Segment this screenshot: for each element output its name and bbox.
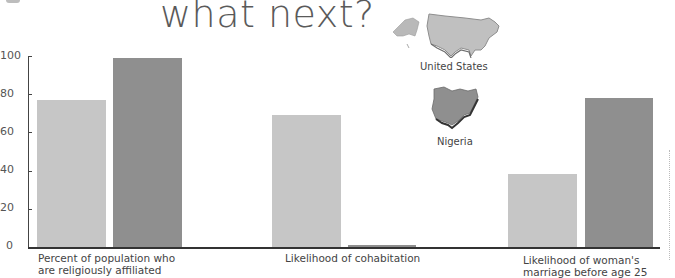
y-tickmark xyxy=(28,56,32,57)
bar-nigeria-marriage xyxy=(585,98,653,247)
category-label-marriage: Likelihood of woman's marriage before ag… xyxy=(523,254,647,278)
y-tick-40: 40 xyxy=(0,163,22,176)
y-tick-80: 80 xyxy=(0,87,22,100)
category-label-line: Likelihood of woman's xyxy=(523,254,647,266)
y-tickmark xyxy=(28,94,32,95)
y-tickmark xyxy=(28,209,32,210)
y-tick-0: 0 xyxy=(6,239,28,252)
y-tick-60: 60 xyxy=(0,125,22,138)
legend-label-nigeria: Nigeria xyxy=(437,136,473,147)
legend-label-us: United States xyxy=(420,61,488,72)
x-axis xyxy=(28,247,660,249)
y-axis xyxy=(28,56,29,248)
corner-decoration xyxy=(6,0,20,3)
category-label-line: Percent of population who xyxy=(38,252,175,264)
bar-us-marriage xyxy=(508,174,577,247)
bar-us-religious xyxy=(37,100,106,247)
bar-nigeria-religious xyxy=(113,58,182,247)
category-label-line: marriage before age 25 xyxy=(523,266,647,278)
edge-decoration xyxy=(669,150,672,260)
y-tick-100: 100 xyxy=(0,49,22,62)
category-label-line: are religiously affiliated xyxy=(38,264,175,276)
category-label-cohabitation: Likelihood of cohabitation xyxy=(285,252,420,264)
nigeria-map-icon xyxy=(428,85,480,131)
y-tick-20: 20 xyxy=(0,201,22,214)
chart-title: what next? xyxy=(160,0,375,36)
bar-us-cohabitation xyxy=(272,115,341,247)
y-tickmark xyxy=(28,171,32,172)
y-tickmark xyxy=(28,132,32,133)
category-label-religious: Percent of population who are religiousl… xyxy=(38,252,175,276)
usa-map-icon xyxy=(385,6,505,58)
